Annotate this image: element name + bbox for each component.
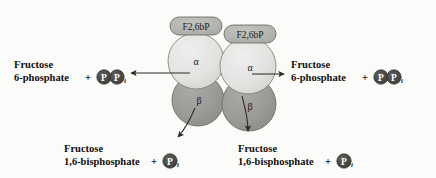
beta-subunit-right-label: β — [247, 101, 252, 112]
reaction-bottom-left-line2: 1,6-bisphosphate — [64, 156, 140, 167]
reaction-left-line2: 6-phosphate — [14, 72, 69, 83]
enzyme-reaction-diagram: α α β β F2,6bP F2,6bP Fructose 6-phospha… — [0, 0, 436, 178]
phosphate-letter-bottom-right: P — [341, 157, 347, 167]
ligand-tag-left-group: F2,6bP — [170, 17, 222, 35]
reaction-bottom-right-line2: 1,6-bisphosphate — [238, 156, 314, 167]
phosphate-group-bottom-left: P i — [163, 154, 179, 169]
reaction-right-line1: Fructose — [291, 59, 330, 70]
phosphate-subscript-left: i — [124, 77, 126, 85]
reaction-bottom-left-plus: + — [151, 156, 157, 167]
reaction-left-line1: Fructose — [14, 59, 53, 70]
reaction-left-plus: + — [85, 72, 91, 83]
beta-subunit-left-label: β — [196, 95, 201, 106]
phosphate-group-left: P P i — [97, 70, 126, 85]
reaction-bottom-right-line1: Fructose — [238, 143, 277, 154]
reaction-bottom-left-line1: Fructose — [64, 143, 103, 154]
reaction-left-group: Fructose 6-phosphate + P P i — [14, 59, 126, 85]
alpha-subunit-left-label: α — [193, 56, 199, 67]
phosphate-group-bottom-right: P i — [337, 154, 353, 169]
phosphate-group-right: P P i — [374, 70, 403, 85]
reaction-bottom-right-plus: + — [325, 156, 331, 167]
reaction-bottom-left-group: Fructose 1,6-bisphosphate + P i — [64, 143, 179, 169]
phosphate-subscript-right: i — [401, 77, 403, 85]
ligand-tag-right-group: F2,6bP — [224, 25, 276, 43]
phosphate-letter-right-1: P — [378, 73, 384, 83]
phosphate-subscript-bottom-right: i — [351, 161, 353, 169]
reaction-right-line2: 6-phosphate — [291, 72, 346, 83]
phosphate-subscript-bottom-left: i — [177, 161, 179, 169]
ligand-tag-left-label: F2,6bP — [182, 22, 209, 32]
reaction-bottom-right-group: Fructose 1,6-bisphosphate + P i — [238, 143, 353, 169]
phosphate-letter-left-1: P — [101, 73, 107, 83]
phosphate-letter-left-2: P — [114, 73, 120, 83]
phosphate-letter-right-2: P — [391, 73, 397, 83]
reaction-right-plus: + — [362, 72, 368, 83]
alpha-subunit-right-label: α — [247, 62, 253, 73]
phosphate-letter-bottom-left: P — [167, 157, 173, 167]
diagram-canvas: α α β β F2,6bP F2,6bP Fructose 6-phospha… — [0, 0, 436, 178]
reaction-right-group: Fructose 6-phosphate + P P i — [291, 59, 403, 85]
ligand-tag-right-label: F2,6bP — [236, 30, 263, 40]
